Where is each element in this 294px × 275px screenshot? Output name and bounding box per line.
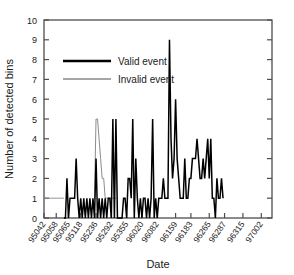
series-group	[44, 40, 223, 218]
y-tick-label: 10	[27, 16, 37, 26]
x-axis-label: Date	[146, 258, 169, 270]
y-tick-label: 7	[32, 75, 37, 85]
chart-figure: Number of detected bins 10 9 8 7 6 5 4 3…	[0, 0, 294, 275]
line-chart: Number of detected bins 10 9 8 7 6 5 4 3…	[0, 0, 294, 275]
x-tick-marks	[44, 213, 261, 218]
x-tick-label: 96315	[225, 219, 247, 244]
y-tick-marks	[44, 20, 272, 218]
y-tick-label: 2	[32, 174, 37, 184]
y-tick-label: 3	[32, 154, 37, 164]
y-tick-label: 0	[32, 214, 37, 224]
x-tick-label: 97002	[243, 219, 265, 244]
y-tick-label: 1	[32, 194, 37, 204]
y-axis-label: Number of detected bins	[3, 59, 15, 179]
y-tick-label: 4	[32, 134, 37, 144]
y-tick-label: 8	[32, 55, 37, 65]
x-tick-labels: 9504295058950659511895236952929535596020…	[26, 219, 265, 244]
y-tick-labels: 10 9 8 7 6 5 4 3 2 1 0	[27, 16, 37, 224]
y-tick-label: 9	[32, 35, 37, 45]
plot-frame	[44, 20, 272, 218]
legend: Valid event Invalid event	[63, 56, 174, 85]
legend-label-valid-event: Valid event	[118, 56, 167, 67]
series-line-valid-event	[64, 40, 223, 218]
y-tick-label: 5	[32, 115, 37, 125]
y-tick-label: 6	[32, 95, 37, 105]
legend-label-invalid-event: Invalid event	[118, 74, 174, 85]
